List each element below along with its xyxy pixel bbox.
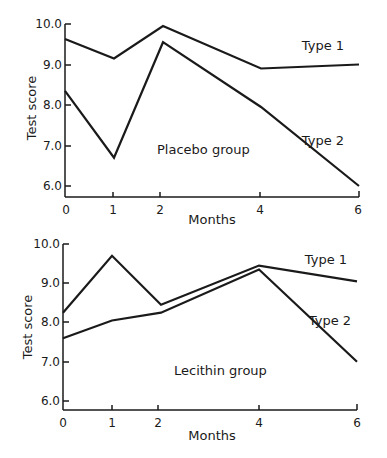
- x-tick-label: 4: [256, 203, 264, 217]
- placebo-chart: 10.0 9.0 8.0 7.0 6.0 0 1 2 4 6 Test scor…: [24, 17, 362, 227]
- y-tick-labels: 10.0 9.0 8.0 7.0 6.0: [35, 17, 62, 193]
- y-tick-label: 6.0: [41, 394, 60, 408]
- y-tick-label: 8.0: [41, 315, 60, 329]
- x-tick-label: 6: [353, 416, 361, 430]
- y-tick-label: 9.0: [43, 58, 62, 72]
- x-axis-title: Months: [188, 212, 236, 227]
- y-tick-label: 10.0: [35, 17, 62, 31]
- figure: 10.0 9.0 8.0 7.0 6.0 0 1 2 4 6 Test scor…: [0, 0, 387, 458]
- y-tick-label: 8.0: [43, 98, 62, 112]
- x-axis-title: Months: [188, 428, 236, 443]
- x-tick-label: 6: [354, 203, 362, 217]
- x-tick-label: 4: [255, 416, 263, 430]
- x-tick-label: 1: [109, 203, 117, 217]
- x-tick-label: 2: [154, 416, 162, 430]
- y-axis: [63, 244, 69, 410]
- x-axis: [65, 191, 359, 197]
- y-tick-label: 7.0: [41, 355, 60, 369]
- x-tick-label: 0: [62, 203, 70, 217]
- series-line-type-2: [65, 42, 359, 186]
- x-tick-label: 0: [59, 416, 67, 430]
- series-label-type-1: Type 1: [304, 252, 347, 267]
- y-axis: [65, 24, 71, 197]
- lecithin-chart: 10.0 9.0 8.0 7.0 6.0 0 1 2 4 6 Test scor…: [20, 237, 361, 443]
- y-tick-label: 10.0: [33, 237, 60, 251]
- group-annotation: Placebo group: [157, 142, 250, 157]
- y-tick-label: 6.0: [43, 179, 62, 193]
- y-axis-title: Test score: [20, 295, 35, 361]
- x-tick-label: 1: [108, 416, 116, 430]
- y-tick-label: 9.0: [41, 276, 60, 290]
- group-annotation: Lecithin group: [174, 363, 267, 378]
- series-label-type-1: Type 1: [301, 38, 344, 53]
- y-tick-label: 7.0: [43, 139, 62, 153]
- y-axis-title: Test score: [24, 76, 39, 142]
- x-tick-label: 2: [156, 203, 164, 217]
- x-axis: [63, 404, 357, 410]
- y-tick-labels: 10.0 9.0 8.0 7.0 6.0: [33, 237, 60, 408]
